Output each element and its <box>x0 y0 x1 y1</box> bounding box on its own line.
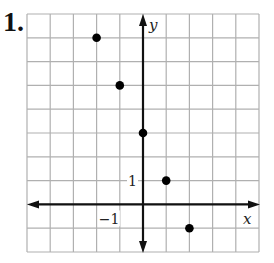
axis-labels: yx1−1 <box>98 16 252 228</box>
x-axis-left-arrow-icon <box>27 200 39 208</box>
y-axis-bottom-arrow-icon <box>139 241 147 253</box>
data-point <box>92 34 101 43</box>
data-point <box>139 129 148 138</box>
x-axis-right-arrow-icon <box>248 200 260 208</box>
x-tick-label: −1 <box>99 211 120 227</box>
x-axis-label: x <box>243 210 252 228</box>
data-point <box>162 176 171 185</box>
y-axis-label: y <box>148 16 158 34</box>
scatter-plot: yx1−1 <box>0 0 274 263</box>
y-axis-top-arrow-icon <box>139 14 147 26</box>
y-tick-label: 1 <box>128 173 137 189</box>
data-point <box>185 224 194 233</box>
data-point <box>116 81 125 90</box>
